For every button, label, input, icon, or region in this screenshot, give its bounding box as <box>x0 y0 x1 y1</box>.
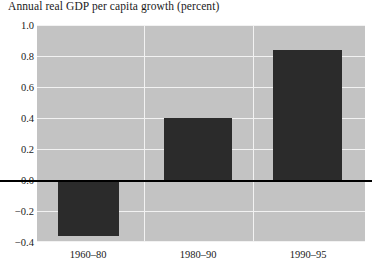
x-tick-label: 1990–95 <box>290 249 327 260</box>
x-tick-label: 1980–90 <box>180 249 217 260</box>
zero-baseline <box>0 180 372 182</box>
y-tick-label: 1.0 <box>1 20 34 31</box>
gridline-vertical <box>253 25 254 242</box>
y-tick-label: −0.2 <box>1 206 34 217</box>
gridline-vertical <box>144 25 145 242</box>
plot-area <box>37 25 365 242</box>
gridline-horizontal <box>37 25 365 26</box>
y-tick-label: 0.4 <box>1 113 34 124</box>
chart-title: Annual real GDP per capita growth (perce… <box>8 0 219 12</box>
gridline-horizontal <box>37 241 365 242</box>
y-tick-label: 0.6 <box>1 82 34 93</box>
x-axis: 1960–80 1980–90 1990–95 <box>0 249 372 267</box>
x-tick-label: 1960–80 <box>70 249 107 260</box>
y-tick-label: 0.2 <box>1 144 34 155</box>
bar-1960-80 <box>58 180 119 236</box>
bar-1980-90 <box>164 118 232 180</box>
bar-1990-95 <box>273 50 342 180</box>
y-tick-label: 0.8 <box>1 51 34 62</box>
y-axis: 1.0 0.8 0.6 0.4 0.2 0.0 −0.2 −0.4 <box>0 25 34 242</box>
y-tick-label: −0.4 <box>1 237 34 248</box>
chart-figure: Annual real GDP per capita growth (perce… <box>0 0 372 269</box>
